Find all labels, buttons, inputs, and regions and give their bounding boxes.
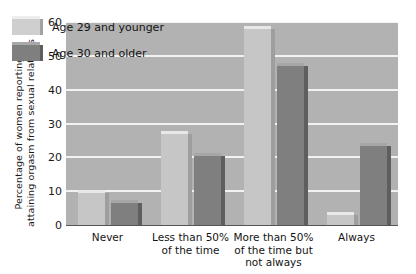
gridline bbox=[66, 156, 398, 158]
y-axis-tick-label: 40 bbox=[36, 83, 62, 96]
gridline bbox=[66, 190, 398, 192]
dark-gray-swatch-icon bbox=[12, 45, 40, 61]
y-axis-tick-label: 0 bbox=[36, 219, 62, 232]
legend-item-age-29-and-younger: Age 29 and younger bbox=[12, 14, 192, 40]
bar bbox=[194, 156, 221, 225]
x-axis-line bbox=[66, 225, 398, 226]
legend: Age 29 and younger Age 30 and older bbox=[12, 14, 192, 66]
x-axis-category-label: Always bbox=[338, 231, 375, 244]
gridline bbox=[66, 89, 398, 91]
gridline bbox=[66, 123, 398, 125]
x-axis-category-labels: NeverLess than 50%of the timeMore than 5… bbox=[66, 231, 398, 273]
bar bbox=[111, 203, 138, 225]
bar bbox=[277, 66, 304, 225]
bar bbox=[78, 193, 105, 225]
legend-item-age-30-and-older: Age 30 and older bbox=[12, 40, 192, 66]
bar bbox=[244, 29, 271, 225]
bar bbox=[360, 146, 387, 226]
bar-chart: Percentage of women reporting attaining … bbox=[0, 0, 416, 274]
x-axis-category-label: Less than 50%of the time bbox=[152, 231, 229, 256]
y-axis-tick-label: 20 bbox=[36, 151, 62, 164]
bar bbox=[327, 215, 354, 225]
bar bbox=[161, 134, 188, 225]
light-gray-swatch-icon bbox=[12, 19, 40, 35]
x-axis-category-label: Never bbox=[92, 231, 123, 244]
x-axis-category-label: More than 50%of the time butnot always bbox=[234, 231, 314, 269]
legend-label-age-29-and-younger: Age 29 and younger bbox=[52, 21, 164, 34]
y-axis-tick-label: 30 bbox=[36, 117, 62, 130]
y-axis-tick-label: 10 bbox=[36, 185, 62, 198]
legend-label-age-30-and-older: Age 30 and older bbox=[52, 47, 147, 60]
